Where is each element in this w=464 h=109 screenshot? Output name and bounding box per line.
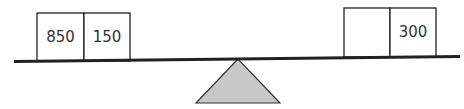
right-box-1 [344,8,390,57]
balance-diagram: 850 150 300 [0,0,464,109]
left-box-2-label: 150 [93,28,122,46]
right-box-2-label: 300 [399,23,428,41]
fulcrum-triangle [196,59,280,103]
left-box-group: 850 150 [37,13,130,61]
left-box-1-label: 850 [46,28,75,46]
right-box-group: 300 [344,8,436,57]
